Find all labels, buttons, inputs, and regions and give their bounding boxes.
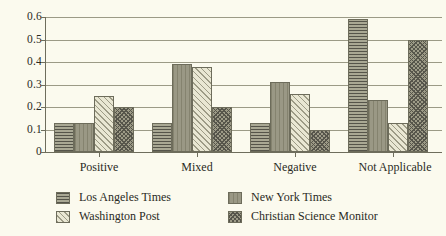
legend-label: Los Angeles Times xyxy=(79,191,171,204)
legend-label: Washington Post xyxy=(79,210,160,223)
bar-positive-christian-science-monitor xyxy=(114,107,134,152)
cropped-title-area xyxy=(0,0,446,9)
legend-label: Christian Science Monitor xyxy=(251,210,378,223)
bar-group-positive xyxy=(54,17,144,152)
y-tick-label: 0.3 xyxy=(6,79,42,91)
legend-entry-los-angeles-times: Los Angeles Times xyxy=(56,191,228,204)
y-tick-label: 0.1 xyxy=(6,124,42,136)
y-tick-label: 0 xyxy=(6,146,42,158)
legend: Los Angeles Times New York Times Washing… xyxy=(56,188,432,226)
bar-group-negative xyxy=(250,17,340,152)
x-category-label-not-applicable: Not Applicable xyxy=(345,160,445,174)
bar-group-not-applicable xyxy=(348,17,438,152)
bar-not-applicable-los-angeles-times xyxy=(348,19,368,152)
y-tick-label: 0.2 xyxy=(6,101,42,113)
legend-label: New York Times xyxy=(251,191,332,204)
x-tick-mark xyxy=(99,152,100,157)
bar-negative-new-york-times xyxy=(270,82,290,152)
bar-positive-los-angeles-times xyxy=(54,123,74,152)
legend-swatch-icon xyxy=(228,192,242,204)
bar-mixed-new-york-times xyxy=(172,64,192,152)
bar-not-applicable-new-york-times xyxy=(368,100,388,152)
legend-swatch-icon xyxy=(56,211,70,223)
bar-negative-christian-science-monitor xyxy=(310,130,330,153)
bar-mixed-christian-science-monitor xyxy=(212,107,232,152)
bar-not-applicable-washington-post xyxy=(388,123,408,152)
y-tick-label: 0.5 xyxy=(6,34,42,46)
bar-negative-washington-post xyxy=(290,94,310,153)
legend-entry-washington-post: Washington Post xyxy=(56,210,228,223)
bar-positive-new-york-times xyxy=(74,123,94,152)
legend-entry-new-york-times: New York Times xyxy=(228,191,432,204)
x-tick-mark xyxy=(197,152,198,157)
y-tick-label: 0.6 xyxy=(6,11,42,23)
y-tick-label: 0.4 xyxy=(6,56,42,68)
bar-mixed-washington-post xyxy=(192,67,212,153)
x-axis-line xyxy=(46,152,442,153)
bar-negative-los-angeles-times xyxy=(250,123,270,152)
bar-chart: 0.6 0.5 0.4 0.3 0.2 0.1 0 xyxy=(0,0,446,236)
bar-positive-washington-post xyxy=(94,96,114,152)
legend-swatch-icon xyxy=(56,192,70,204)
x-category-label-mixed: Mixed xyxy=(152,160,242,174)
bar-group-mixed xyxy=(152,17,242,152)
x-tick-mark xyxy=(393,152,394,157)
bar-mixed-los-angeles-times xyxy=(152,123,172,152)
x-category-label-negative: Negative xyxy=(250,160,340,174)
x-tick-mark xyxy=(295,152,296,157)
plot-area xyxy=(46,17,442,152)
legend-swatch-icon xyxy=(228,211,242,223)
x-category-label-positive: Positive xyxy=(54,160,144,174)
legend-entry-christian-science-monitor: Christian Science Monitor xyxy=(228,210,432,223)
bar-not-applicable-christian-science-monitor xyxy=(408,40,428,153)
